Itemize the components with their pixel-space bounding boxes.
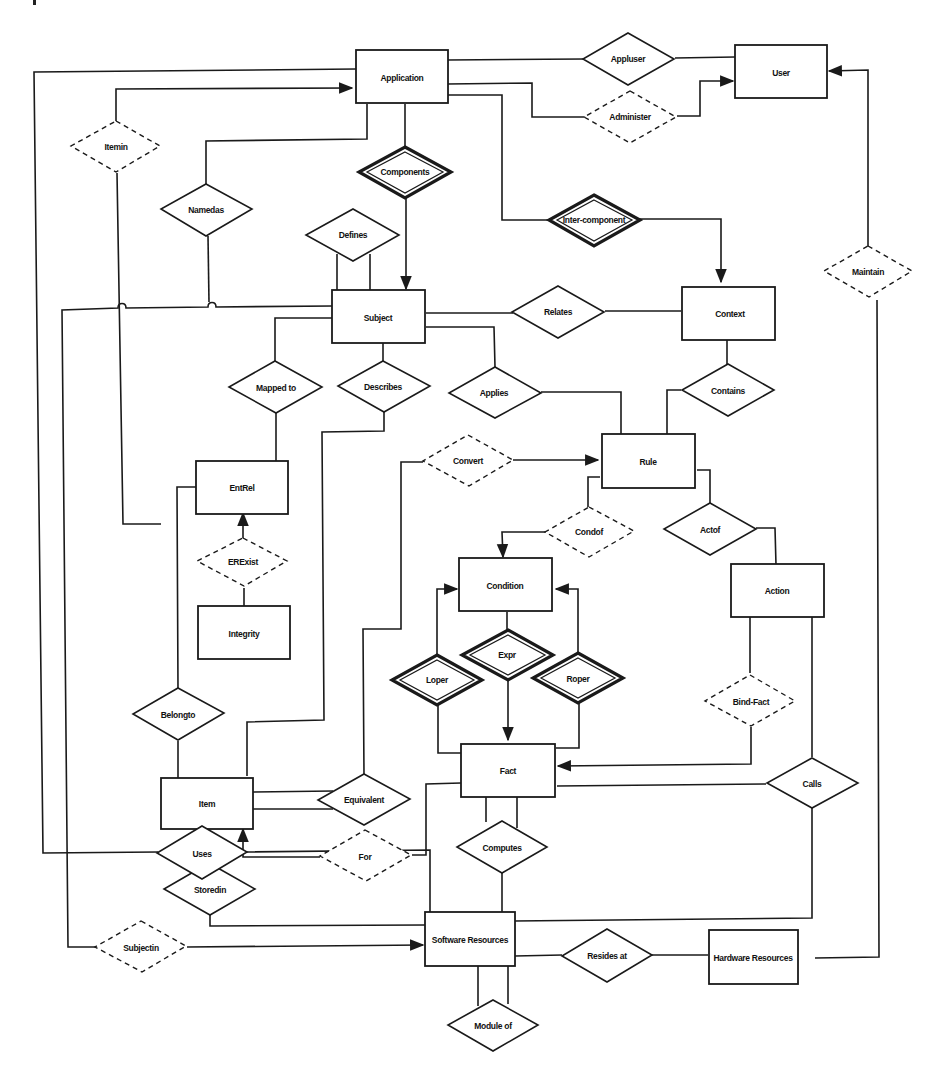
svg-text:Calls: Calls <box>803 779 822 789</box>
relationship-equivalent[interactable]: Equivalent <box>318 774 410 825</box>
entity-user[interactable]: User <box>735 45 827 98</box>
relationship-uses[interactable]: Uses <box>157 826 247 879</box>
relationship-relates[interactable]: Relates <box>512 286 604 338</box>
svg-text:Subjectin: Subjectin <box>123 943 159 953</box>
relationship-itemin[interactable]: Itemin <box>71 121 160 172</box>
svg-text:Roper: Roper <box>566 674 590 684</box>
relationship-inter-component[interactable]: Inter-component <box>549 195 640 246</box>
svg-text:Namedas: Namedas <box>188 205 224 215</box>
relationship-expr[interactable]: Expr <box>462 630 553 680</box>
svg-text:Condition: Condition <box>487 581 524 591</box>
svg-text:Appluser: Appluser <box>611 54 646 64</box>
svg-text:EntRel: EntRel <box>229 483 254 493</box>
relationship-convert[interactable]: Convert <box>423 435 513 486</box>
svg-text:Expr: Expr <box>498 650 517 660</box>
entity-entrel[interactable]: EntRel <box>196 461 288 514</box>
relationship-bind-fact[interactable]: Bind-Fact <box>705 675 795 726</box>
relationship-roper[interactable]: Roper <box>533 653 623 703</box>
svg-text:Contains: Contains <box>711 386 746 396</box>
relationship-administer[interactable]: Administer <box>584 91 676 143</box>
entity-subject[interactable]: Subject <box>332 290 425 343</box>
svg-text:Belongto: Belongto <box>161 710 196 720</box>
relationship-condof[interactable]: Condof <box>545 507 634 557</box>
relationship-for[interactable]: For <box>320 830 411 881</box>
svg-text:User: User <box>772 68 791 78</box>
relationship-actof[interactable]: Actof <box>664 503 756 555</box>
svg-text:Action: Action <box>765 586 790 596</box>
svg-text:ERExist: ERExist <box>228 557 258 567</box>
svg-text:Equivalent: Equivalent <box>344 795 384 805</box>
svg-text:Fact: Fact <box>500 766 517 776</box>
relationship-calls[interactable]: Calls <box>767 758 858 808</box>
svg-text:Describes: Describes <box>364 382 403 392</box>
svg-text:Relates: Relates <box>544 307 573 317</box>
svg-text:Application: Application <box>381 73 424 83</box>
svg-text:Subject: Subject <box>364 313 393 323</box>
svg-text:Uses: Uses <box>192 849 212 859</box>
entity-fact[interactable]: Fact <box>461 744 555 797</box>
svg-text:Condof: Condof <box>575 527 603 537</box>
relationship-subjectin[interactable]: Subjectin <box>95 921 186 972</box>
entity-software-resources[interactable]: Software Resources <box>425 912 515 966</box>
entity-rule[interactable]: Rule <box>602 434 695 488</box>
entity-condition[interactable]: Condition <box>459 558 552 611</box>
svg-text:Actof: Actof <box>700 525 721 535</box>
entity-item[interactable]: Item <box>161 778 253 829</box>
svg-text:Components: Components <box>381 167 431 177</box>
relationship-mapped-to[interactable]: Mapped to <box>229 361 322 413</box>
svg-text:Resides at: Resides at <box>587 951 627 961</box>
relationship-belongto[interactable]: Belongto <box>133 688 224 740</box>
svg-text:Administer: Administer <box>609 112 651 122</box>
svg-text:Inter-component: Inter-component <box>563 215 626 225</box>
relationship-module-of[interactable]: Module of <box>448 1000 538 1051</box>
relationship-computes[interactable]: Computes <box>457 821 547 873</box>
relationship-erexist[interactable]: ERExist <box>197 538 287 586</box>
svg-text:Item: Item <box>199 799 216 809</box>
relationship-contains[interactable]: Contains <box>682 364 774 416</box>
svg-text:Software Resources: Software Resources <box>432 935 509 945</box>
entity-context[interactable]: Context <box>682 287 775 340</box>
svg-text:Defines: Defines <box>339 230 368 240</box>
relationship-describes[interactable]: Describes <box>338 361 430 412</box>
svg-text:For: For <box>359 852 373 862</box>
er-diagram: Application User Subject Context EntRel … <box>0 0 944 1084</box>
svg-text:Convert: Convert <box>453 456 483 466</box>
relationship-appluser[interactable]: Appluser <box>583 33 674 85</box>
svg-text:Maintain: Maintain <box>852 267 884 277</box>
entity-hardware-resources[interactable]: Hardware Resources <box>709 930 798 984</box>
relationship-loper[interactable]: Loper <box>392 655 482 705</box>
relationship-defines[interactable]: Defines <box>306 209 399 261</box>
relationship-components[interactable]: Components <box>359 147 451 198</box>
relationship-maintain[interactable]: Maintain <box>824 246 912 297</box>
svg-text:Itemin: Itemin <box>104 142 127 152</box>
svg-text:Rule: Rule <box>639 457 657 467</box>
svg-text:Module of: Module of <box>474 1021 512 1031</box>
svg-text:Storedin: Storedin <box>194 885 226 895</box>
svg-text:Context: Context <box>715 309 745 319</box>
entity-application[interactable]: Application <box>356 50 448 103</box>
svg-text:Integrity: Integrity <box>229 629 260 639</box>
relationship-resides-at[interactable]: Resides at <box>562 929 652 982</box>
svg-text:Loper: Loper <box>426 675 449 685</box>
svg-text:Mapped to: Mapped to <box>256 383 296 393</box>
svg-text:Applies: Applies <box>480 388 509 398</box>
relationship-namedas[interactable]: Namedas <box>161 184 252 236</box>
svg-text:Computes: Computes <box>482 843 522 853</box>
entity-integrity[interactable]: Integrity <box>198 606 290 659</box>
svg-text:Hardware Resources: Hardware Resources <box>713 953 793 963</box>
entity-action[interactable]: Action <box>731 564 824 617</box>
relationship-applies[interactable]: Applies <box>449 367 541 418</box>
svg-text:Bind-Fact: Bind-Fact <box>733 697 770 707</box>
